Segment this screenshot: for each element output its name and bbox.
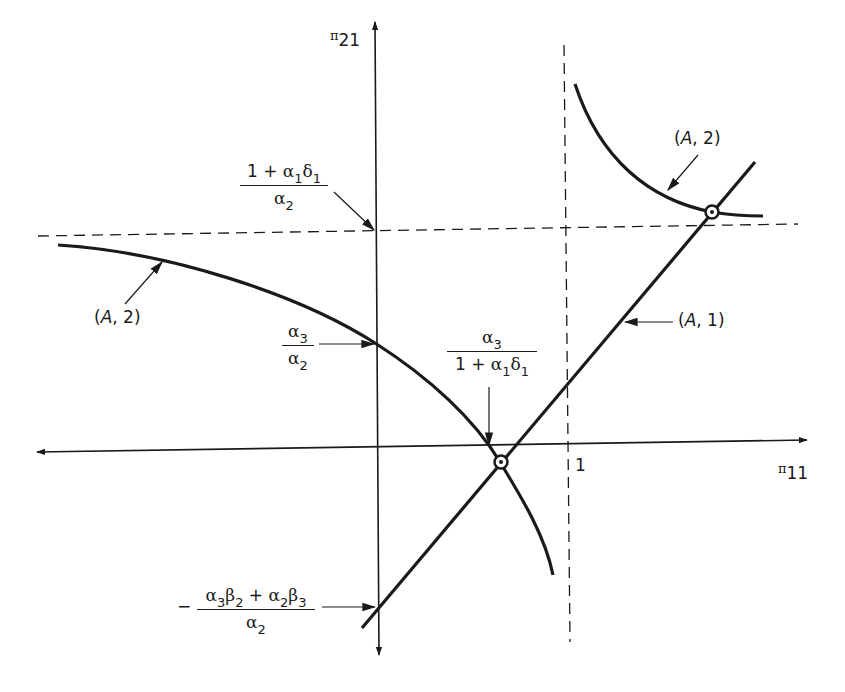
subscript: 2 — [258, 622, 266, 637]
subscript: 2 — [286, 198, 294, 213]
y-axis-label: π21 — [330, 30, 360, 50]
subscript: 1 — [313, 171, 321, 186]
label-A1: (A, 1) — [678, 310, 725, 330]
label-letter: A — [685, 310, 697, 330]
paren: ( — [674, 128, 681, 148]
delta-symbol: δ — [303, 161, 313, 181]
term: 1 + — [455, 354, 491, 374]
fraction-bar — [447, 351, 537, 352]
plus-sign: + — [243, 585, 268, 605]
curve-A2-right — [575, 84, 763, 216]
fraction-numerator: α3β2 + α2β3 — [206, 584, 307, 608]
subscript: 3 — [494, 337, 502, 352]
pi-symbol: π — [330, 28, 339, 43]
fraction-denominator: 1 + α1δ1 — [455, 353, 529, 377]
label-rest: , 1) — [696, 310, 724, 330]
label-A2-right: (A, 2) — [674, 128, 721, 148]
alpha-symbol: α — [288, 321, 299, 341]
diagram-canvas — [0, 0, 845, 692]
y-axis — [375, 22, 379, 655]
fraction-denominator: α2 — [246, 611, 266, 635]
x-axis-label: π11 — [778, 463, 808, 483]
subscript: 3 — [298, 595, 306, 610]
minus-sign: − — [177, 596, 191, 616]
subscript: 3 — [217, 595, 225, 610]
delta-symbol: δ — [511, 354, 521, 374]
fraction-y-intercept-line: α3β2 + α2β3 α2 — [197, 584, 315, 635]
paren: ( — [678, 310, 685, 330]
beta-symbol: β — [225, 585, 235, 605]
fraction-y-intercept-curve: α3 α2 — [282, 320, 314, 371]
alpha-symbol: α — [482, 327, 493, 347]
x-axis-subscript: 11 — [787, 463, 809, 483]
arrow-asymptote-y — [334, 192, 374, 230]
alpha-symbol: α — [491, 354, 502, 374]
alpha-symbol: α — [269, 585, 280, 605]
alpha-symbol: α — [246, 612, 257, 632]
alpha-symbol: α — [283, 161, 294, 181]
arrow-A2-right — [668, 155, 698, 190]
subscript: 2 — [235, 595, 243, 610]
fraction-denominator: α2 — [274, 187, 294, 211]
fraction-numerator: α3 — [288, 320, 308, 344]
arrow-A2-left — [125, 262, 162, 304]
beta-symbol: β — [288, 585, 298, 605]
label-rest: , 2) — [112, 307, 140, 327]
subscript: 3 — [300, 331, 308, 346]
alpha-symbol: α — [288, 348, 299, 368]
term: 1 + — [247, 161, 283, 181]
subscript: 1 — [502, 364, 510, 379]
fraction-denominator: α2 — [288, 347, 308, 371]
line-A1 — [362, 162, 755, 628]
horizontal-asymptote — [38, 224, 798, 236]
subscript: 1 — [294, 171, 302, 186]
equilibrium-point-lower-dot — [499, 460, 503, 464]
vertical-asymptote — [564, 45, 570, 642]
x-axis — [37, 440, 807, 452]
alpha-symbol: α — [206, 585, 217, 605]
label-letter: A — [101, 307, 113, 327]
alpha-symbol: α — [274, 188, 285, 208]
subscript: 2 — [300, 358, 308, 373]
subscript: 1 — [521, 364, 529, 379]
subscript: 2 — [280, 595, 288, 610]
y-axis-subscript: 21 — [339, 30, 361, 50]
fraction-numerator: α3 — [482, 326, 502, 350]
equilibrium-point-upper-dot — [710, 210, 714, 214]
pi-symbol: π — [778, 461, 787, 476]
curve-A2-left — [58, 245, 553, 575]
label-A2-left: (A, 2) — [94, 307, 141, 327]
fraction-x-intercept-curve: α3 1 + α1δ1 — [447, 326, 537, 377]
paren: ( — [94, 307, 101, 327]
label-letter: A — [681, 128, 693, 148]
x-tick-one: 1 — [575, 455, 586, 475]
fraction-asymptote-y: 1 + α1δ1 α2 — [240, 160, 328, 211]
fraction-numerator: 1 + α1δ1 — [247, 160, 321, 184]
label-rest: , 2) — [692, 128, 720, 148]
fraction-bar — [282, 345, 314, 346]
